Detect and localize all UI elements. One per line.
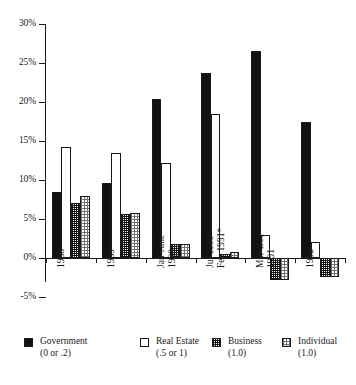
x-tick-mark — [146, 258, 147, 263]
y-tick-label: 10% — [0, 175, 36, 185]
bar-real-estate — [111, 153, 121, 258]
x-tick-mark — [46, 258, 47, 263]
bar-individual — [230, 252, 240, 258]
bar-government — [251, 51, 261, 258]
plot-area — [46, 24, 345, 282]
bar-individual — [130, 213, 140, 258]
x-axis-label: Jul 1990-Feb 1991* — [205, 228, 226, 268]
bar-government — [102, 183, 112, 258]
legend-label-note: (.5 or 1) — [156, 348, 199, 360]
legend-label: Business(1.0) — [228, 336, 262, 359]
x-axis-label: 1989 — [106, 249, 117, 268]
y-tick-label: 0% — [0, 253, 36, 263]
y-tick-label: 20% — [0, 97, 36, 107]
legend-swatch-icon — [140, 338, 149, 347]
legend-swatch-icon — [282, 338, 291, 347]
legend-label-name: Individual — [298, 336, 337, 348]
y-tick-mark — [39, 258, 46, 259]
y-tick-label: -5% — [0, 292, 36, 302]
bar-government — [301, 122, 311, 259]
bar-individual — [180, 244, 190, 258]
bar-group — [295, 24, 345, 282]
legend-label-name: Government — [40, 336, 88, 348]
y-tick-mark — [39, 141, 46, 142]
x-axis-label: 1992 — [305, 249, 316, 268]
y-tick-mark — [39, 219, 46, 220]
bar-business — [320, 258, 330, 277]
y-tick-mark — [39, 297, 46, 298]
legend-swatch-icon — [212, 338, 221, 347]
bar-individual — [330, 258, 340, 277]
legend-label-name: Real Estate — [156, 336, 199, 348]
legend-swatch-icon — [24, 338, 33, 347]
y-tick-label: 25% — [0, 58, 36, 68]
y-tick-mark — [39, 24, 46, 25]
bar-individual — [280, 258, 290, 280]
y-tick-mark — [39, 102, 46, 103]
x-tick-mark — [345, 258, 346, 263]
x-axis-label: 1988 — [56, 249, 67, 268]
bar-business — [71, 203, 81, 258]
bar-group — [96, 24, 146, 282]
legend-label: Individual(1.0) — [298, 336, 337, 359]
legend-label: Real Estate(.5 or 1) — [156, 336, 199, 359]
x-tick-mark — [245, 258, 246, 263]
x-tick-mark — [295, 258, 296, 263]
bar-real-estate — [61, 147, 71, 258]
legend-label-note: (0 or .2) — [40, 348, 88, 360]
x-tick-mark — [96, 258, 97, 263]
legend-label: Government(0 or .2) — [40, 336, 88, 359]
legend-label-note: (1.0) — [298, 348, 337, 360]
x-axis-label: Mar-Dec1991 — [255, 234, 276, 268]
y-tick-label: 5% — [0, 214, 36, 224]
bar-group — [46, 24, 96, 282]
y-tick-mark — [39, 180, 46, 181]
legend-label-note: (1.0) — [228, 348, 262, 360]
bar-individual — [80, 196, 90, 258]
y-tick-label: 30% — [0, 19, 36, 29]
chart-legend: Government(0 or .2)Real Estate(.5 or 1)B… — [0, 336, 356, 380]
x-axis-label: Jan-June1990 — [156, 235, 177, 268]
y-tick-label: 15% — [0, 136, 36, 146]
bar-chart-figure: 30%25%20%15%10%5%0%-5% 19881989Jan-June1… — [0, 0, 356, 385]
x-tick-mark — [196, 258, 197, 263]
plot-wrapper: 30%25%20%15%10%5%0%-5% 19881989Jan-June1… — [0, 0, 356, 300]
y-tick-mark — [39, 63, 46, 64]
bar-business — [121, 214, 131, 258]
legend-label-name: Business — [228, 336, 262, 348]
